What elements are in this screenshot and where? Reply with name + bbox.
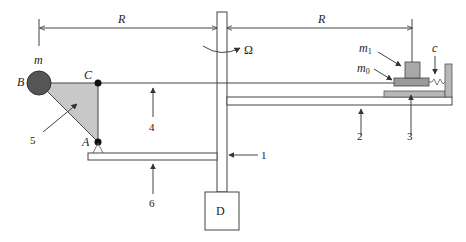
part-6-label: 6 (149, 197, 155, 209)
spring-c-icon (429, 79, 445, 85)
part-4-label: 4 (149, 121, 155, 133)
arm-bar-2 (227, 97, 452, 105)
m1-pointer-arrow (378, 52, 401, 66)
radius-left-label: R (117, 12, 126, 26)
radius-dimension-left: R (39, 12, 217, 46)
rotating-arm-diagram: R R Ω D m B C A m1 m0 (0, 0, 466, 242)
vertical-shaft (217, 12, 227, 192)
motor-d-label: D (216, 204, 225, 218)
mass-m0-block (394, 78, 429, 86)
spring-c-label: c (432, 41, 438, 55)
lower-bar-6 (88, 153, 217, 160)
point-b-label: B (17, 75, 25, 89)
part-2-label: 2 (357, 130, 363, 142)
mass-m1-block (405, 62, 420, 78)
end-wall (445, 64, 452, 97)
omega-label: Ω (244, 43, 253, 57)
part-5-label: 5 (30, 134, 36, 146)
mass-m0-label: m0 (357, 61, 370, 76)
ball-mass-b (27, 71, 51, 95)
radius-right-label: R (317, 12, 326, 26)
point-a (95, 139, 102, 146)
slider-base-3 (384, 91, 445, 97)
point-c-label: C (84, 68, 93, 82)
part-3-label: 3 (407, 130, 413, 142)
m0-pointer-arrow (374, 69, 392, 80)
triangle-frame-5 (39, 83, 98, 142)
rotation-indicator: Ω (203, 43, 253, 57)
point-c (95, 80, 102, 87)
mass-m-label: m (34, 53, 43, 67)
part-1-label: 1 (261, 149, 267, 161)
part-5-arrow (43, 104, 77, 132)
point-a-label: A (81, 135, 90, 149)
mass-m1-label: m1 (359, 41, 372, 56)
radius-dimension-right: R (227, 12, 412, 62)
